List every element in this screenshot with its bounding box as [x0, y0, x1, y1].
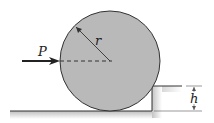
height-label: h — [190, 91, 198, 106]
step-face — [152, 86, 162, 118]
ground — [10, 111, 154, 119]
diagram: P r h — [0, 0, 214, 123]
force-label: P — [37, 44, 47, 59]
radius-label: r — [95, 33, 102, 48]
h-arrow-down-icon — [192, 106, 196, 110]
